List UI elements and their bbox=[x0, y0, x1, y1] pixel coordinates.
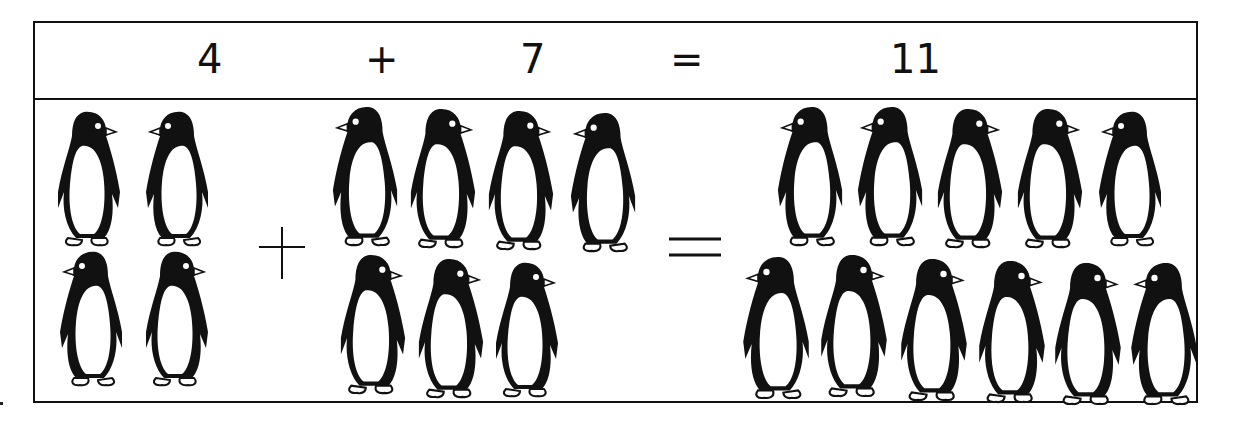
penguin-icon bbox=[813, 251, 895, 399]
penguin-icon bbox=[1010, 105, 1090, 250]
equation-header: 4 + 7 = 11 bbox=[35, 23, 1196, 100]
penguin-icon bbox=[563, 109, 643, 254]
equals-sign-icon bbox=[665, 233, 725, 263]
plus-sign: + bbox=[365, 37, 399, 81]
penguin-icon bbox=[403, 105, 483, 250]
penguin-icon bbox=[47, 248, 135, 388]
plus-sign-icon bbox=[257, 223, 307, 283]
penguin-icon bbox=[133, 108, 221, 248]
penguin-icon bbox=[850, 103, 930, 248]
penguin-icon bbox=[735, 253, 817, 401]
equation-frame: 4 + 7 = 11 bbox=[33, 21, 1198, 403]
penguin-icon bbox=[487, 259, 567, 399]
penguin-icon bbox=[1123, 259, 1205, 407]
penguin-icon bbox=[1047, 259, 1129, 407]
penguin-icon bbox=[971, 257, 1053, 405]
addend-b-number: 7 bbox=[520, 37, 545, 81]
penguin-icon bbox=[930, 105, 1010, 250]
stray-mark bbox=[0, 402, 3, 405]
penguin-icon bbox=[481, 107, 561, 252]
penguin-icon bbox=[333, 251, 413, 396]
sum-number: 11 bbox=[890, 37, 941, 81]
addend-a-number: 4 bbox=[197, 37, 222, 81]
penguin-icon bbox=[1090, 108, 1170, 248]
equals-sign: = bbox=[670, 37, 704, 81]
penguin-icon bbox=[411, 255, 491, 400]
penguin-icon bbox=[893, 255, 975, 403]
penguin-icon bbox=[45, 108, 133, 248]
penguin-icon bbox=[325, 103, 405, 248]
penguin-icon bbox=[770, 103, 850, 248]
penguin-icon bbox=[133, 248, 221, 388]
